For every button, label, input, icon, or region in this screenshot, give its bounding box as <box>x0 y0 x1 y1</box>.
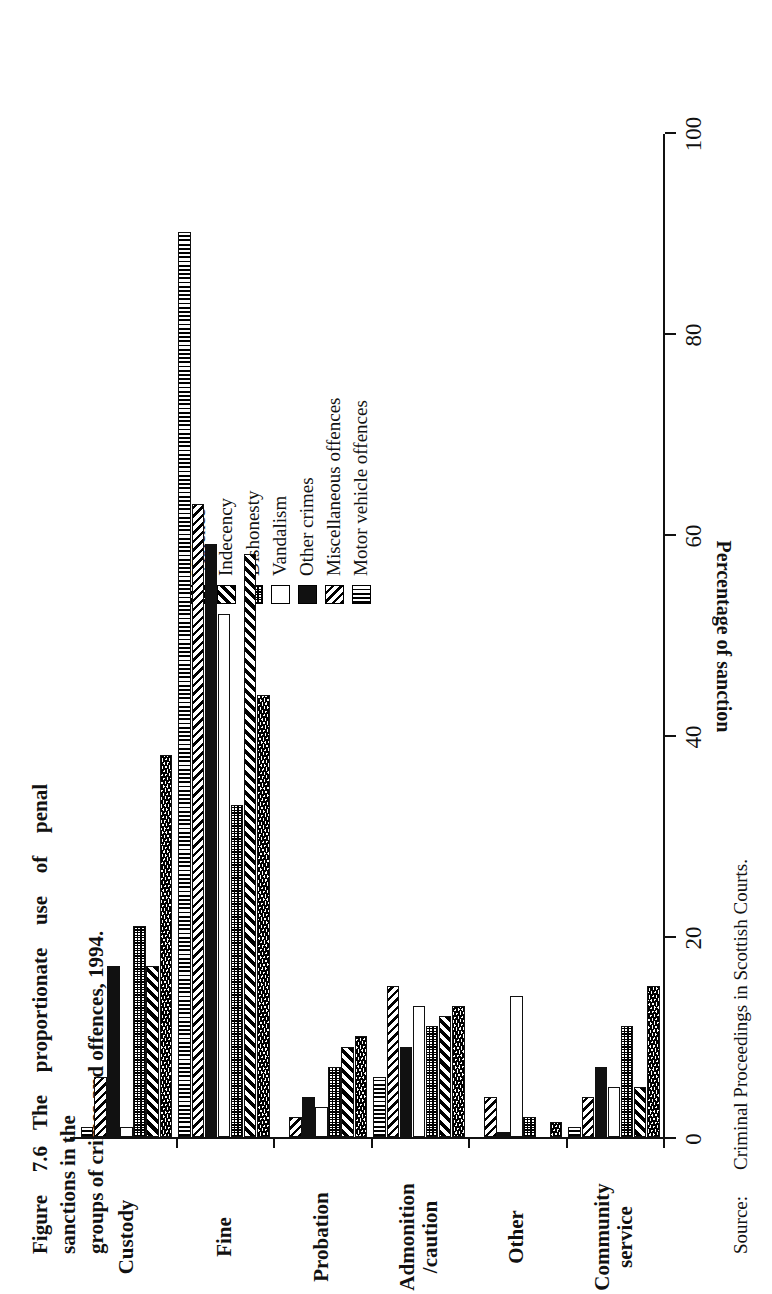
bar <box>341 1047 354 1137</box>
category-label: Other <box>505 1157 528 1294</box>
bar <box>355 1037 368 1138</box>
bar <box>621 1026 634 1137</box>
bar <box>400 1047 413 1137</box>
value-tick <box>665 1137 676 1139</box>
bar <box>107 966 120 1137</box>
bar <box>426 1026 439 1137</box>
bar <box>192 504 205 1137</box>
category-tick <box>176 1139 178 1148</box>
value-tick-label: 100 <box>681 117 707 152</box>
rotated-figure-wrapper: Figure 7.6The proportionate use of penal… <box>0 0 772 1294</box>
category-label: Custody <box>115 1157 138 1294</box>
bar <box>302 1097 315 1137</box>
value-tick <box>665 936 676 938</box>
bar <box>510 996 523 1137</box>
bar <box>568 1127 581 1137</box>
value-tick-label: 60 <box>681 525 707 548</box>
bar-group <box>468 134 566 1139</box>
value-tick-label: 80 <box>681 324 707 347</box>
bar <box>81 1127 94 1137</box>
bar-group <box>566 134 664 1139</box>
bar-group <box>176 134 274 1139</box>
value-tick <box>665 735 676 737</box>
category-label: Probation <box>310 1157 333 1294</box>
value-tick-label: 20 <box>681 927 707 950</box>
bar <box>289 1117 302 1137</box>
bar <box>94 1077 107 1137</box>
value-tick-label: 0 <box>681 1133 707 1145</box>
category-tick <box>468 1139 470 1148</box>
bar <box>452 1006 465 1137</box>
category-label: Community service <box>591 1157 637 1294</box>
bar <box>550 1122 563 1137</box>
source-note: Source: Criminal Proceedings in Scottish… <box>730 859 752 1254</box>
bar <box>231 805 244 1137</box>
value-tick <box>665 333 676 335</box>
figure-number: Figure 7.6 <box>28 1146 52 1254</box>
bar <box>582 1097 595 1137</box>
category-tick <box>371 1139 373 1148</box>
figure-7-6: Figure 7.6The proportionate use of penal… <box>0 0 772 1294</box>
bar-group <box>78 134 176 1139</box>
value-axis-line <box>663 134 665 1139</box>
bar <box>413 1006 426 1137</box>
source-label: Source: <box>730 1196 752 1254</box>
category-tick <box>566 1139 568 1148</box>
bar-group <box>371 134 469 1139</box>
bar <box>373 1077 386 1137</box>
bar <box>634 1087 647 1137</box>
bar <box>205 544 218 1137</box>
category-tick <box>663 1139 665 1148</box>
bar <box>497 1132 510 1137</box>
bar <box>315 1107 328 1137</box>
bar <box>160 755 173 1137</box>
bar <box>218 614 231 1137</box>
value-axis: 020406080100 <box>663 134 665 1139</box>
bar <box>133 926 146 1137</box>
value-tick <box>665 534 676 536</box>
bar <box>178 233 191 1138</box>
plot-area: CustodyFineProbationAdmonition /cautionO… <box>78 134 663 1139</box>
bar <box>608 1087 621 1137</box>
bar <box>439 1016 452 1137</box>
bar <box>484 1097 497 1137</box>
value-tick <box>665 132 676 134</box>
bar <box>387 986 400 1137</box>
bar-group <box>273 134 371 1139</box>
category-label: Fine <box>213 1157 236 1294</box>
bar <box>146 966 159 1137</box>
category-tick <box>273 1139 275 1148</box>
value-tick-label: 40 <box>681 726 707 749</box>
bar <box>328 1067 341 1137</box>
bar <box>647 986 660 1137</box>
bar <box>120 1127 133 1137</box>
category-label: Admonition /caution <box>396 1157 442 1294</box>
source-text: Criminal Proceedings in Scottish Courts. <box>730 859 752 1170</box>
bar <box>523 1117 536 1137</box>
bar <box>244 554 257 1137</box>
bar <box>595 1067 608 1137</box>
bar <box>257 695 270 1137</box>
